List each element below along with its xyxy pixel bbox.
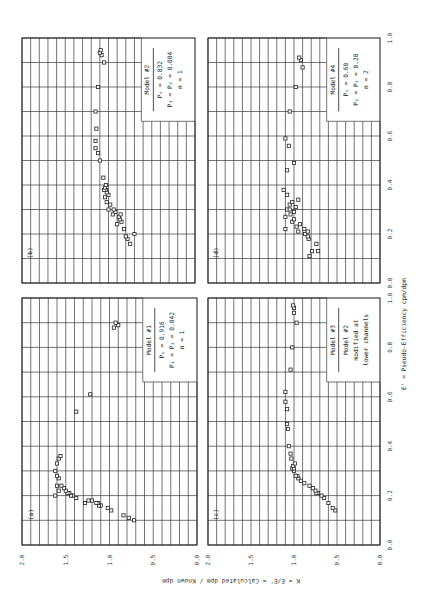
data-point: [292, 311, 295, 314]
data-point: [286, 422, 289, 425]
data-point: [95, 127, 98, 130]
data-point: [298, 56, 301, 59]
data-point: [110, 509, 113, 512]
panel-label: (a): [27, 509, 34, 520]
x-tick-label: 0.8: [386, 81, 393, 92]
data-point: [124, 235, 127, 238]
data-point: [129, 242, 132, 245]
data-point: [291, 201, 294, 204]
data-point: [116, 223, 119, 226]
data-point: [112, 208, 115, 211]
x-tick-label: 0.6: [386, 391, 393, 402]
x-tick-label: 0.0: [386, 539, 393, 550]
data-point: [292, 218, 295, 221]
legend-line: Pₛ = 0.916: [158, 321, 165, 359]
data-point: [83, 501, 86, 504]
data-point: [97, 85, 100, 88]
data-point: [122, 228, 125, 231]
data-point: [292, 161, 295, 164]
x-tick-label: 0.4: [386, 179, 393, 190]
data-point: [282, 188, 285, 191]
data-point: [288, 110, 291, 113]
y-tick-label: 2.0: [204, 554, 211, 565]
y-tick-label: 0.5: [333, 554, 340, 565]
legend-line: Model #2: [342, 325, 349, 355]
y-tick-label: 1.0: [290, 554, 297, 565]
data-point: [291, 346, 294, 349]
data-point: [301, 66, 304, 69]
data-point: [114, 321, 117, 324]
data-point: [293, 462, 296, 465]
data-point: [292, 304, 295, 307]
data-point: [306, 230, 309, 233]
data-point: [308, 254, 311, 257]
data-point: [297, 198, 300, 201]
data-point: [55, 462, 58, 465]
data-point: [104, 183, 107, 186]
panel-d: Model #4Pₛ = 0.60P₁ = P₂ = 0.20n = 2(d): [208, 38, 380, 283]
data-point: [105, 201, 108, 204]
data-point: [288, 208, 291, 211]
x-tick-label: 0.2: [386, 490, 393, 501]
y-tick-label: 0.0: [193, 554, 200, 565]
data-point: [97, 152, 100, 155]
data-point: [286, 408, 289, 411]
panel-a: Model #1Pₛ = 0.916P₁ = P₂ = 0.042n = 1(a…: [22, 298, 197, 545]
data-point: [294, 474, 297, 477]
data-point: [331, 506, 334, 509]
data-point: [315, 242, 318, 245]
panel-label: (d): [212, 247, 219, 258]
data-point: [54, 469, 57, 472]
x-tick-label: 0.2: [386, 228, 393, 239]
data-point: [284, 228, 287, 231]
data-point: [94, 110, 97, 113]
data-point: [294, 205, 297, 208]
data-point: [55, 474, 58, 477]
data-point: [133, 232, 136, 235]
data-point: [320, 494, 323, 497]
legend-title: Model #4: [329, 64, 336, 94]
data-point: [75, 410, 78, 413]
x-tick-label: 0.0: [386, 277, 393, 288]
data-point: [60, 484, 63, 487]
panel-b: Model #2Pₛ = 0.832P₁ = P₂ = 0.084n = 1(b…: [22, 38, 195, 283]
data-point: [112, 326, 115, 329]
data-point: [310, 250, 313, 253]
panel-label: (b): [26, 247, 33, 258]
y-tick-label: 2.0: [18, 554, 25, 565]
y-tick-label: 1.0: [106, 554, 113, 565]
data-point: [122, 514, 125, 517]
x-axis-title: E' = Pseudo-Efficiency cpm/dpm: [400, 278, 408, 390]
data-point: [102, 176, 105, 179]
data-point: [289, 368, 292, 371]
data-point: [284, 400, 287, 403]
legend-line: n = 1: [178, 330, 185, 349]
data-point: [94, 147, 97, 150]
data-point: [298, 223, 301, 226]
data-point: [90, 499, 93, 502]
figure-four-panels: Model #1Pₛ = 0.916P₁ = P₂ = 0.042n = 1(a…: [0, 0, 426, 613]
data-point: [308, 484, 311, 487]
y-tick-label: 0.5: [149, 554, 156, 565]
data-point: [55, 484, 58, 487]
data-point: [303, 228, 306, 231]
data-point: [106, 506, 109, 509]
data-point: [94, 139, 97, 142]
y-tick-label: 1.5: [62, 554, 69, 565]
data-point: [295, 225, 298, 228]
data-point: [295, 321, 298, 324]
data-point: [284, 390, 287, 393]
x-tick-label: 1.0: [386, 292, 393, 303]
data-point: [327, 501, 330, 504]
data-point: [316, 250, 319, 253]
data-point: [287, 144, 290, 147]
data-point: [103, 61, 106, 64]
data-point: [89, 393, 92, 396]
legend-line: Pₛ = 0.60: [342, 63, 349, 97]
legend-line: P₁ = P₂ = 0.20: [352, 53, 359, 105]
legend-line: lower channels: [362, 314, 369, 366]
x-tick-label: 1.0: [386, 32, 393, 43]
data-point: [286, 193, 289, 196]
y-tick-label: 1.5: [247, 554, 254, 565]
data-point: [98, 159, 101, 162]
